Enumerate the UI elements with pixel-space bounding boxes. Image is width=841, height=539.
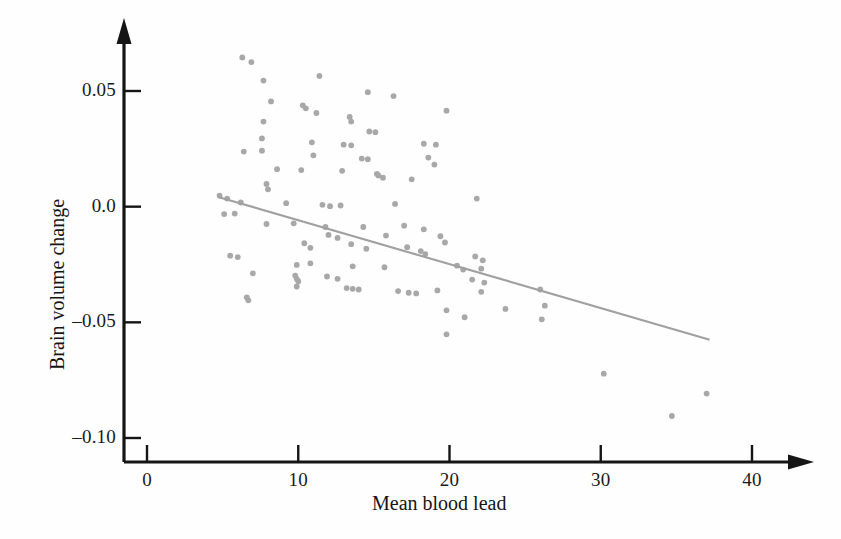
- data-point: [401, 223, 407, 229]
- data-point: [365, 89, 371, 95]
- x-tick-label: 20: [410, 469, 490, 491]
- data-point: [406, 290, 412, 296]
- data-point: [239, 55, 245, 61]
- data-point: [444, 307, 450, 313]
- axes-group: [117, 18, 815, 470]
- data-point: [235, 254, 241, 260]
- data-point: [259, 136, 265, 142]
- data-point: [344, 285, 350, 291]
- data-point: [462, 314, 468, 320]
- data-point: [326, 232, 332, 238]
- y-tick-label: 0.05: [82, 79, 116, 101]
- data-point: [395, 288, 401, 294]
- data-point: [307, 245, 313, 251]
- data-point: [274, 166, 280, 172]
- data-point: [382, 264, 388, 270]
- data-point: [472, 253, 478, 259]
- data-point: [366, 129, 372, 135]
- data-point: [303, 105, 309, 111]
- data-point: [283, 200, 289, 206]
- y-axis-title-wrapper: Brain volume change: [0, 0, 60, 539]
- data-point: [404, 244, 410, 250]
- data-point: [294, 284, 300, 290]
- data-point: [317, 73, 323, 79]
- x-tick-label: 40: [712, 469, 792, 491]
- data-point: [383, 233, 389, 239]
- plot-canvas: [0, 0, 841, 539]
- data-point: [335, 276, 341, 282]
- data-point: [227, 253, 233, 259]
- data-point: [265, 186, 271, 192]
- y-tick-label: –0.05: [72, 310, 116, 332]
- data-point: [444, 331, 450, 337]
- data-point: [261, 119, 267, 125]
- data-point: [431, 162, 437, 168]
- data-point: [309, 139, 315, 145]
- data-point: [295, 278, 301, 284]
- data-point: [442, 240, 448, 246]
- data-point: [307, 260, 313, 266]
- data-point: [356, 287, 362, 293]
- y-axis-title: Brain volume change: [46, 199, 69, 370]
- data-point: [320, 202, 326, 208]
- data-point: [259, 148, 265, 154]
- y-tick-label: 0.0: [92, 195, 116, 217]
- scatter-plot-figure: 0.050.0–0.05–0.10010203040 Brain volume …: [0, 0, 841, 539]
- data-point: [433, 142, 439, 148]
- data-point: [341, 142, 347, 148]
- data-point: [421, 226, 427, 232]
- x-tick-label: 30: [561, 469, 641, 491]
- data-point: [704, 391, 710, 397]
- data-point: [380, 175, 386, 181]
- data-point: [301, 240, 307, 246]
- data-point: [539, 316, 545, 322]
- data-point: [363, 246, 369, 252]
- data-point: [250, 270, 256, 276]
- y-tick-label: –0.10: [72, 426, 116, 448]
- data-point: [268, 99, 274, 105]
- x-tick-label: 0: [107, 469, 187, 491]
- data-point: [291, 220, 297, 226]
- data-point: [339, 168, 345, 174]
- data-point: [232, 211, 238, 217]
- data-point: [294, 262, 300, 268]
- data-point: [478, 289, 484, 295]
- data-point: [241, 149, 247, 155]
- x-tick-label: 10: [258, 469, 338, 491]
- data-point: [221, 211, 227, 217]
- data-point: [264, 221, 270, 227]
- data-point: [245, 297, 251, 303]
- data-point: [348, 119, 354, 125]
- data-point: [348, 241, 354, 247]
- data-point: [469, 277, 475, 283]
- data-point: [413, 291, 419, 297]
- data-point: [264, 181, 270, 187]
- data-point: [261, 78, 267, 84]
- data-point: [601, 371, 607, 377]
- data-point: [392, 201, 398, 207]
- data-point: [444, 108, 450, 114]
- data-point: [438, 233, 444, 239]
- data-point: [391, 93, 397, 99]
- data-point: [409, 176, 415, 182]
- data-point: [481, 280, 487, 286]
- data-point: [360, 224, 366, 230]
- data-point: [248, 59, 254, 65]
- data-point: [365, 156, 371, 162]
- data-point: [425, 155, 431, 161]
- data-point: [542, 303, 548, 309]
- data-point: [503, 306, 509, 312]
- data-point: [310, 152, 316, 158]
- data-point: [669, 413, 675, 419]
- data-point: [359, 156, 365, 162]
- data-point: [372, 129, 378, 135]
- data-point: [335, 235, 341, 241]
- data-point: [327, 203, 333, 209]
- x-axis-title: Mean blood lead: [372, 492, 506, 515]
- data-point: [350, 263, 356, 269]
- data-point: [298, 167, 304, 173]
- data-point: [348, 142, 354, 148]
- data-point: [324, 274, 330, 280]
- data-point: [474, 196, 480, 202]
- data-point: [313, 110, 319, 116]
